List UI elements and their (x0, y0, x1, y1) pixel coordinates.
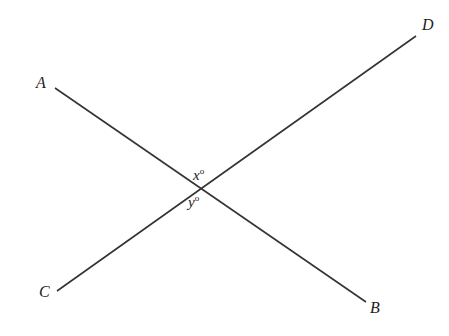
angle-label-y: yo (188, 194, 199, 210)
line-cd (57, 36, 416, 291)
angle-y-var: y (188, 194, 195, 210)
point-label-b: B (370, 300, 380, 316)
point-label-a: A (36, 75, 46, 91)
angle-x-var: x (193, 167, 200, 183)
point-label-d: D (422, 17, 434, 33)
diagram-canvas (0, 0, 449, 336)
point-label-c: C (39, 284, 50, 300)
line-ab (55, 88, 366, 302)
angle-x-degree: o (200, 166, 205, 176)
angle-y-degree: o (195, 193, 200, 203)
angle-label-x: xo (193, 167, 204, 183)
